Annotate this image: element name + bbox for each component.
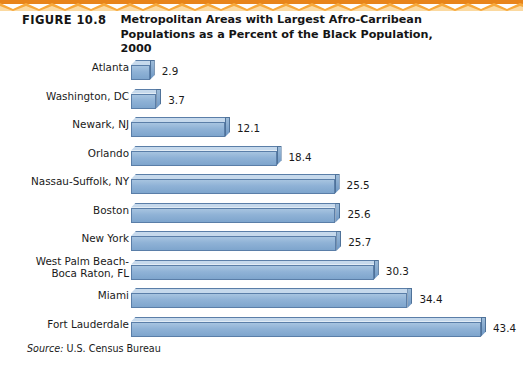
figure-title: Metropolitan Areas with Largest Afro-Car… (120, 13, 455, 57)
bar-front-face (131, 265, 374, 280)
category-label: West Palm Beach- Boca Raton, FL (0, 255, 129, 280)
bar-row: West Palm Beach- Boca Raton, FL30.3 (0, 255, 523, 283)
bar (131, 146, 282, 166)
bar-side-face (150, 60, 155, 80)
bar-value-label: 25.7 (348, 236, 371, 248)
bar-side-face (374, 260, 379, 280)
category-label: Miami (0, 289, 129, 301)
bar-front-face (131, 236, 336, 251)
bar (131, 117, 230, 137)
bar-side-face (156, 89, 161, 109)
bar (131, 89, 161, 109)
bar (131, 231, 341, 251)
bar-row: Nassau-Suffolk, NY25.5 (0, 169, 523, 197)
orange-wave-band (0, 0, 523, 11)
bar-front-face (131, 94, 156, 109)
bar-front-face (131, 322, 481, 337)
bar-row: Washington, DC3.7 (0, 84, 523, 112)
category-label: Orlando (0, 147, 129, 159)
bar-front-face (131, 65, 150, 80)
category-label: Fort Lauderdale (0, 318, 129, 330)
bar-row: Orlando18.4 (0, 141, 523, 169)
bar-side-face (481, 317, 486, 337)
bar-value-label: 30.3 (386, 265, 409, 277)
bar-side-face (335, 203, 340, 223)
bar-value-label: 25.6 (347, 208, 370, 220)
bar (131, 260, 379, 280)
category-label: Atlanta (0, 61, 129, 73)
bar-row: Fort Lauderdale43.4 (0, 312, 523, 340)
bar (131, 60, 155, 80)
category-label: Washington, DC (0, 90, 129, 102)
bar (131, 174, 340, 194)
bar-front-face (131, 179, 335, 194)
source-text: U.S. Census Bureau (63, 343, 160, 354)
bar-row: New York25.7 (0, 226, 523, 254)
category-label: New York (0, 232, 129, 244)
category-label: Newark, NJ (0, 118, 129, 130)
bar (131, 317, 486, 337)
bar-chart: Atlanta2.9Washington, DC3.7Newark, NJ12.… (0, 52, 523, 340)
bar-value-label: 3.7 (168, 94, 185, 106)
bar-row: Boston25.6 (0, 198, 523, 226)
bar-side-face (335, 174, 340, 194)
bar-value-label: 25.5 (347, 179, 370, 191)
category-label: Nassau-Suffolk, NY (0, 175, 129, 187)
bar-value-label: 34.4 (419, 293, 442, 305)
bar-side-face (336, 231, 341, 251)
bar-value-label: 43.4 (493, 322, 516, 334)
bar-side-face (225, 117, 230, 137)
category-label: Boston (0, 204, 129, 216)
bar-value-label: 18.4 (289, 151, 312, 163)
bar-value-label: 2.9 (162, 65, 179, 77)
figure-header: FIGURE 10.8 Metropolitan Areas with Larg… (22, 13, 502, 57)
bar-value-label: 12.1 (237, 122, 260, 134)
figure-number-label: FIGURE 10.8 (22, 13, 106, 27)
bar-row: Atlanta2.9 (0, 55, 523, 83)
bar-front-face (131, 151, 277, 166)
bar (131, 203, 340, 223)
bar (131, 288, 412, 308)
orange-wave-graphic (0, 0, 523, 11)
bar-front-face (131, 208, 335, 223)
bar-front-face (131, 122, 225, 137)
bar-front-face (131, 293, 407, 308)
source-word: Source: (27, 343, 63, 354)
bar-side-face (407, 288, 412, 308)
bar-row: Miami34.4 (0, 283, 523, 311)
bar-row: Newark, NJ12.1 (0, 112, 523, 140)
source-note: Source: U.S. Census Bureau (27, 343, 161, 354)
bar-side-face (277, 146, 282, 166)
